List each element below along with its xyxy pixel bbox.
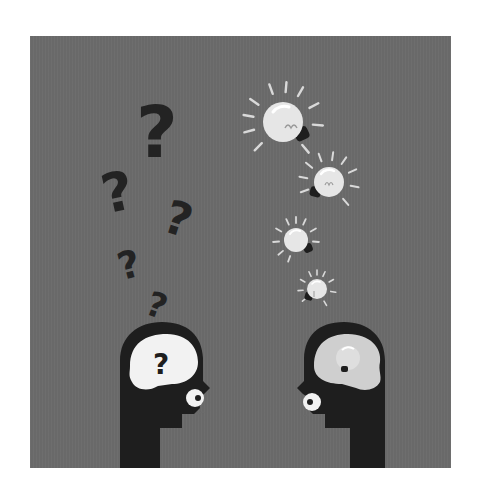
illustration-panel: ? ? ? ? ?: [30, 36, 451, 468]
lightbulb-icon: [244, 82, 323, 152]
lightbulb-icon: [299, 152, 358, 205]
question-mark-icon: ?: [153, 348, 169, 381]
idea-head: [297, 322, 385, 468]
confused-head: ?: [120, 322, 210, 468]
lightbulb-icon: [273, 217, 319, 262]
lightbulb-icon: [298, 270, 336, 305]
